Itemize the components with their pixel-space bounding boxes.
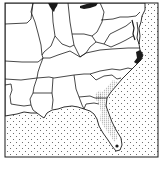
map-svg — [0, 0, 164, 170]
range-map — [0, 0, 164, 170]
lake-okeechobee — [115, 144, 118, 147]
